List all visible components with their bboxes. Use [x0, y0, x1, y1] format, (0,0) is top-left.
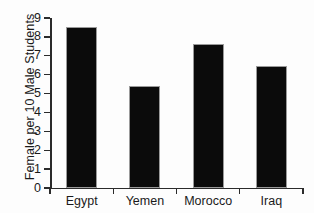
y-axis-tick-label: 1 — [27, 162, 41, 177]
y-axis-tick-label: 5 — [27, 86, 41, 101]
y-axis-tick-label: 9 — [27, 11, 41, 26]
y-axis-tick-label: 7 — [27, 48, 41, 63]
y-axis-tick — [44, 131, 50, 132]
x-axis-category-label: Iraq — [231, 194, 311, 209]
y-axis-tick-label: 0 — [27, 181, 41, 196]
bar — [193, 44, 224, 188]
y-axis-tick — [44, 36, 50, 37]
bar-chart: Female per 10 Male Students 0123456789 E… — [0, 0, 314, 213]
y-axis-tick-label: 2 — [27, 143, 41, 158]
y-axis-line — [50, 18, 52, 189]
y-axis-tick — [44, 93, 50, 94]
bar — [256, 66, 287, 188]
bar — [129, 86, 160, 188]
y-axis-tick — [44, 74, 50, 75]
y-axis-tick-label: 4 — [27, 105, 41, 120]
y-axis-tick-label: 8 — [27, 29, 41, 44]
y-axis-tick-label: 3 — [27, 124, 41, 139]
y-axis-tick — [44, 112, 50, 113]
y-axis-tick-label: 6 — [27, 67, 41, 82]
bar — [66, 27, 97, 188]
y-axis-tick — [44, 150, 50, 151]
y-axis-tick — [44, 17, 50, 18]
y-axis-tick — [44, 55, 50, 56]
y-axis-tick — [44, 168, 50, 169]
